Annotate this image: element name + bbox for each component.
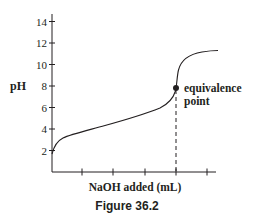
y-axis-label: pH [10, 79, 27, 93]
titration-chart: 2 4 6 8 10 12 14 pH NaOH added (mL) equi… [0, 0, 254, 198]
y-tick-label: 10 [36, 59, 48, 71]
equivalence-label-line1: equivalence [184, 82, 242, 95]
y-tick-label: 6 [42, 102, 48, 114]
y-tick-label: 4 [42, 123, 48, 135]
x-axis-label: NaOH added (mL) [89, 181, 182, 194]
equivalence-point-marker [173, 85, 179, 91]
figure-caption: Figure 36.2 [0, 199, 254, 213]
equivalence-label-line2: point [184, 95, 210, 108]
y-tick-label: 8 [42, 80, 48, 92]
y-tick-label: 14 [36, 16, 48, 28]
y-tick-label: 2 [42, 145, 48, 157]
y-tick-labels: 2 4 6 8 10 12 14 [36, 16, 48, 157]
y-tick-label: 12 [36, 37, 47, 49]
